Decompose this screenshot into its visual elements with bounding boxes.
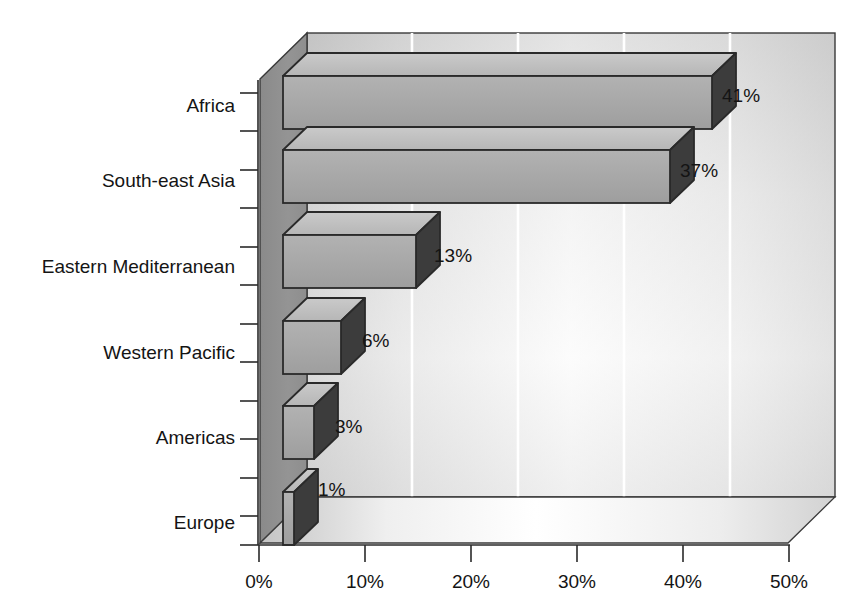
category-label-americas: Americas — [40, 428, 235, 447]
plot-floor — [260, 497, 835, 543]
x-tick-label-4: 40% — [643, 572, 723, 591]
category-label-eastern-mediterranean: Eastern Mediterranean — [8, 257, 235, 276]
x-tick-label-2: 20% — [431, 572, 511, 591]
x-tick-label-0: 0% — [219, 572, 299, 591]
value-label-western-pacific: 6% — [362, 331, 389, 350]
chart-container: Africa South-east Asia Eastern Mediterra… — [0, 0, 857, 615]
value-label-eastern-mediterranean: 13% — [434, 246, 472, 265]
value-label-africa: 41% — [722, 86, 760, 105]
category-label-africa: Africa — [40, 96, 235, 115]
value-label-americas: 3% — [335, 417, 362, 436]
category-label-south-east-asia: South-east Asia — [40, 171, 235, 190]
value-label-europe: 1% — [318, 480, 345, 499]
x-tick-label-3: 30% — [537, 572, 617, 591]
bar-western-pacific — [283, 298, 365, 374]
bar-africa — [283, 53, 736, 129]
bar-south-east-asia — [283, 127, 694, 203]
x-tick-label-5: 50% — [749, 572, 829, 591]
x-tick-label-1: 10% — [325, 572, 405, 591]
y-axis — [240, 80, 258, 545]
bar-eastern-mediterranean — [283, 212, 440, 288]
category-label-europe: Europe — [40, 513, 235, 532]
value-label-south-east-asia: 37% — [680, 161, 718, 180]
x-axis — [258, 545, 790, 562]
category-label-western-pacific: Western Pacific — [40, 343, 235, 362]
